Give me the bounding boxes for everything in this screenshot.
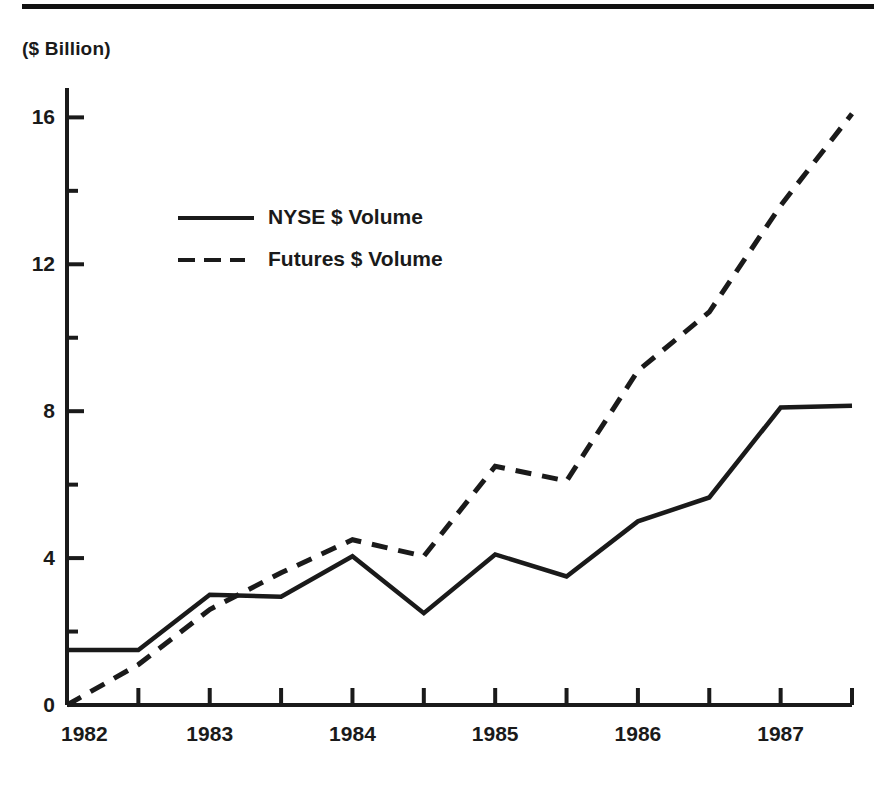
y-axis-tick-label: 4 bbox=[7, 546, 55, 570]
data-series bbox=[67, 114, 852, 705]
x-axis-tick-label: 1982 bbox=[61, 722, 108, 746]
y-axis-tick-label: 0 bbox=[7, 693, 55, 717]
y-axis-tick-label: 16 bbox=[7, 105, 55, 129]
series-line-nyse bbox=[67, 406, 852, 650]
x-axis-ticks bbox=[138, 688, 852, 705]
y-axis-tick-label: 8 bbox=[7, 399, 55, 423]
x-axis-tick-label: 1983 bbox=[186, 722, 233, 746]
x-axis-tick-label: 1987 bbox=[757, 722, 804, 746]
x-axis-tick-label: 1985 bbox=[472, 722, 519, 746]
x-axis-tick-label: 1984 bbox=[329, 722, 376, 746]
x-axis-tick-label: 1986 bbox=[615, 722, 662, 746]
chart-figure: ($ Billion) NYSE $ Volume Futures $ Volu… bbox=[0, 0, 882, 795]
y-axis-ticks bbox=[67, 117, 84, 631]
y-axis-tick-label: 12 bbox=[7, 252, 55, 276]
plot-area bbox=[0, 0, 882, 795]
